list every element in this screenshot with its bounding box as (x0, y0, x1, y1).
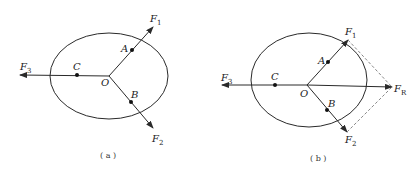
point-c-label: C (271, 71, 279, 82)
force-fr-label: FR (393, 83, 407, 97)
diagram-canvas: O A B C F1 F2 F3 ( a ) O A B C F1 F2 F3 … (0, 0, 420, 174)
point-c-label: C (73, 61, 81, 72)
force-f2-label: F2 (151, 133, 163, 147)
body-ellipse (251, 33, 367, 127)
panel-b: O A B C F1 F2 F3 FR ( b ) (220, 26, 407, 163)
parallelogram-dashed-top (348, 40, 392, 87)
force-f3-arrow (20, 75, 109, 76)
point-a-label: A (120, 43, 128, 54)
point-b-label: B (327, 98, 335, 109)
point-a-dot (326, 60, 330, 64)
point-b-label: B (130, 89, 138, 100)
force-fr-arrow (307, 85, 392, 87)
panel-b-caption: ( b ) (310, 154, 326, 163)
force-f3-label: F3 (19, 61, 31, 75)
panel-a: O A B C F1 F2 F3 ( a ) (19, 13, 168, 160)
force-f1-label: F1 (344, 26, 356, 40)
point-a-label: A (317, 55, 325, 66)
point-o-label: O (101, 77, 109, 88)
point-c-dot (273, 83, 277, 87)
panel-a-caption: ( a ) (100, 151, 116, 160)
point-a-dot (130, 48, 134, 52)
point-b-dot (129, 100, 133, 104)
point-c-dot (75, 73, 79, 77)
force-f3-label: F3 (220, 72, 232, 86)
point-o-label: O (300, 88, 308, 99)
force-f2-label: F2 (344, 134, 356, 148)
force-f1-label: F1 (149, 13, 161, 27)
